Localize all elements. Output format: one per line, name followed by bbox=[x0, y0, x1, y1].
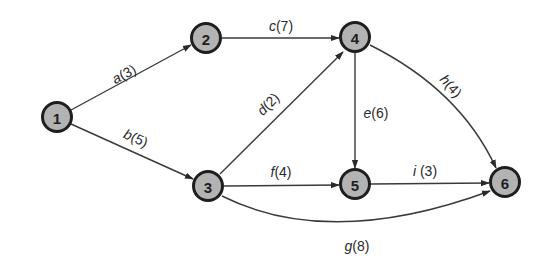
node-3: 3 bbox=[194, 172, 223, 201]
edge-label-e: e(6) bbox=[364, 105, 389, 121]
edge-label-g: g(8) bbox=[345, 238, 370, 254]
edge-label-b: b(5) bbox=[121, 126, 150, 151]
node-4: 4 bbox=[341, 23, 370, 52]
node-1: 1 bbox=[43, 103, 72, 132]
edge-d bbox=[220, 52, 343, 174]
edge-h bbox=[370, 45, 496, 168]
edge-labels: a(3) b(5) c(7) d(2) e(6) f(4) g(8) h(4) … bbox=[109, 18, 465, 254]
node-6: 6 bbox=[491, 168, 520, 197]
node-label-1: 1 bbox=[53, 110, 61, 127]
edge-i bbox=[371, 183, 489, 184]
network-diagram: a(3) b(5) c(7) d(2) e(6) f(4) g(8) h(4) … bbox=[0, 0, 553, 273]
edge-label-a: a(3) bbox=[109, 61, 139, 87]
node-label-3: 3 bbox=[204, 179, 212, 196]
edge-f bbox=[224, 185, 339, 186]
edge-label-f: f(4) bbox=[270, 164, 291, 180]
edge-label-h: h(4) bbox=[437, 71, 466, 100]
node-2: 2 bbox=[192, 24, 221, 53]
node-label-4: 4 bbox=[351, 30, 360, 47]
node-label-2: 2 bbox=[202, 31, 210, 48]
node-label-5: 5 bbox=[351, 177, 359, 194]
edge-label-d: d(2) bbox=[254, 90, 283, 119]
node-5: 5 bbox=[341, 170, 370, 199]
edge-label-c: c(7) bbox=[269, 18, 293, 34]
edge-label-i: i (3) bbox=[413, 163, 437, 179]
node-label-6: 6 bbox=[501, 175, 509, 192]
